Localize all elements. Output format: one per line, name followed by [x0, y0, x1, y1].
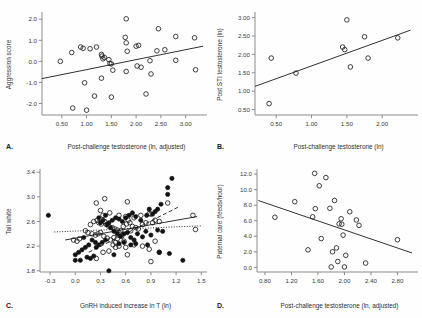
- data-point-open: [332, 198, 337, 203]
- data-point-filled: [112, 253, 116, 257]
- data-point-open: [144, 92, 149, 97]
- data-point-filled: [181, 258, 185, 262]
- x-tick-label: 0.0: [71, 277, 80, 284]
- data-point-open: [334, 246, 339, 251]
- data-point-open: [193, 67, 198, 72]
- data-point-open: [193, 227, 198, 232]
- data-point-filled: [147, 207, 151, 211]
- data-point-filled: [139, 218, 143, 222]
- data-point-open: [347, 209, 352, 214]
- y-tick-label: 2.2: [26, 242, 35, 249]
- data-point-open: [109, 95, 114, 100]
- y-tick-label: 8.0: [243, 201, 252, 208]
- y-tick-label: 10.0: [240, 186, 253, 193]
- data-point-filled: [105, 222, 109, 226]
- panel-letter-a: A.: [6, 143, 13, 150]
- x-tick-label: 2.40: [365, 277, 378, 284]
- y-tick-label: 2.6: [26, 218, 35, 225]
- panel-letter-c: C.: [6, 302, 13, 309]
- data-point-filled: [108, 226, 112, 230]
- data-point-open: [363, 261, 368, 266]
- x-tick-label: 1.5: [197, 277, 206, 284]
- data-point-filled: [46, 213, 50, 217]
- data-point-open: [362, 34, 367, 39]
- x-tick-label: 2.00: [376, 120, 389, 127]
- x-tick-label: 1.50: [341, 120, 354, 127]
- data-point-open: [354, 218, 359, 223]
- y-tick-label: 1.0: [28, 37, 37, 44]
- x-tick-label: 1.50: [105, 120, 118, 127]
- data-point-filled: [140, 235, 144, 239]
- data-point-open: [124, 41, 129, 46]
- y-tick-label: 12.0: [240, 170, 253, 177]
- data-point-open: [310, 215, 315, 220]
- data-point-open: [125, 49, 130, 54]
- data-point-open: [366, 56, 371, 61]
- data-point-open: [123, 245, 128, 250]
- data-point-filled: [129, 243, 133, 247]
- data-point-open: [88, 46, 93, 51]
- data-point-open: [330, 250, 335, 255]
- data-point-open: [58, 59, 63, 64]
- data-point-filled: [144, 229, 148, 233]
- data-point-filled: [73, 253, 77, 257]
- data-point-open: [156, 26, 161, 31]
- data-point-filled: [90, 238, 94, 242]
- y-tick-label: 0.0: [243, 264, 252, 271]
- data-point-open: [342, 265, 347, 270]
- data-point-open: [269, 56, 274, 61]
- data-point-open: [107, 211, 112, 216]
- data-point-open: [165, 201, 170, 206]
- data-point-open: [313, 206, 318, 211]
- y-tick-label: 1.50: [238, 69, 251, 76]
- y-tick-label: 0.50: [238, 106, 251, 113]
- data-point-open: [173, 34, 178, 39]
- x-tick-label: 1.60: [312, 277, 325, 284]
- x-tick-label: -0.3: [45, 277, 56, 284]
- data-point-open: [267, 101, 272, 106]
- x-axis-title: Post-challenge testosterone (ln, adjuste…: [281, 302, 399, 310]
- y-tick-label: 6.0: [243, 217, 252, 224]
- data-point-open: [139, 213, 144, 218]
- chart-b: 0.501.001.502.000.501.001.502.002.503.00…: [211, 0, 422, 159]
- data-point-open: [149, 259, 154, 264]
- data-point-open: [124, 69, 129, 74]
- data-point-filled: [124, 216, 128, 220]
- data-point-open: [336, 259, 341, 264]
- data-point-open: [395, 237, 400, 242]
- y-tick-label: 1.00: [238, 87, 251, 94]
- x-tick-label: 3.00: [180, 120, 193, 127]
- x-axis-title: GnRH induced increase in T (ln): [80, 302, 171, 310]
- x-tick-label: 1.20: [285, 277, 298, 284]
- data-point-open: [348, 65, 353, 70]
- data-point-open: [319, 236, 324, 241]
- data-point-filled: [92, 254, 96, 258]
- x-tick-label: 1.00: [306, 120, 319, 127]
- y-axis-title: Aggression score: [5, 39, 13, 89]
- data-point-filled: [73, 258, 77, 262]
- data-point-open: [395, 36, 400, 41]
- chart-a: 0.501.001.502.002.503.00-2.0-1.00.01.02.…: [0, 0, 211, 159]
- data-point-open: [306, 248, 311, 253]
- x-tick-label: 0.50: [56, 120, 69, 127]
- data-point-filled: [82, 235, 86, 239]
- x-tick-label: 1.2: [172, 277, 181, 284]
- four-panel-scatter-figure: 0.501.001.502.002.503.00-2.0-1.00.01.02.…: [0, 0, 422, 318]
- data-point-open: [111, 68, 116, 73]
- x-axis-title: Post-challenge testosterone (ln, adjuste…: [68, 143, 186, 151]
- data-point-open: [343, 253, 348, 258]
- data-point-filled: [78, 258, 82, 262]
- data-point-open: [94, 45, 99, 50]
- x-axis-title: Post-challenge testosterone (ln): [293, 143, 383, 151]
- data-point-open: [148, 58, 153, 63]
- chart-c: -0.30.00.30.60.91.21.51.82.22.63.03.4GnR…: [0, 159, 211, 318]
- data-point-filled: [145, 243, 149, 247]
- data-point-open: [107, 249, 112, 254]
- data-point-open: [324, 175, 329, 180]
- data-point-filled: [157, 250, 161, 254]
- y-tick-label: 3.4: [26, 168, 35, 175]
- y-axis-title: Post STI testosterone (ln): [216, 28, 224, 100]
- data-point-filled: [145, 213, 149, 217]
- data-point-open: [147, 247, 152, 252]
- data-point-open: [124, 17, 129, 22]
